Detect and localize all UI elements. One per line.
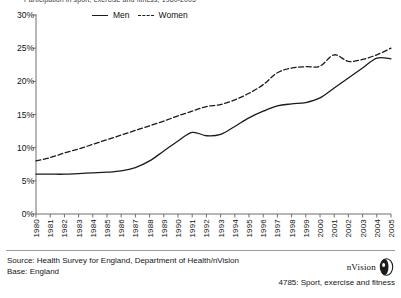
x-tick-label: 1995 — [245, 219, 254, 238]
y-tick-label: 30% — [17, 10, 34, 20]
y-tick-label: 0% — [22, 209, 34, 219]
source-block: Source: Health Survey for England, Depar… — [7, 256, 239, 277]
x-tick-label: 1993 — [217, 219, 226, 238]
x-tick-label: 1982 — [60, 219, 69, 238]
x-tick-label: 1987 — [131, 219, 140, 238]
chart-figure: Participation in sport, exercise and fit… — [0, 0, 401, 298]
base-text: Base: England — [7, 267, 239, 278]
x-tick-label: 1985 — [103, 219, 112, 238]
x-tick-label: 1990 — [174, 219, 183, 238]
x-tick-label: 1998 — [288, 219, 297, 238]
x-tick-label: 1992 — [202, 219, 211, 238]
x-axis-tick-labels: 1980198119821983198419851986198719881989… — [0, 219, 401, 253]
brand-block: nVision 4785: Sport, exercise and fitnes… — [235, 258, 395, 287]
plot-area: 0%5%10%15%20%25%30% 19801981198219831984… — [0, 0, 401, 250]
x-tick-label: 2005 — [387, 219, 396, 238]
reference-text: 4785: Sport, exercise and fitness — [235, 278, 395, 287]
brand-row: nVision — [235, 258, 395, 276]
brand-name: nVision — [347, 262, 376, 272]
x-tick-label: 1996 — [259, 219, 268, 238]
y-tick-label: 5% — [22, 176, 34, 186]
y-tick-label: 10% — [17, 143, 34, 153]
x-tick-label: 2003 — [359, 219, 368, 238]
y-tick-label: 25% — [17, 43, 34, 53]
x-tick-label: 2001 — [330, 219, 339, 238]
x-tick-label: 1988 — [146, 219, 155, 238]
x-tick-label: 1981 — [46, 219, 55, 238]
x-tick-label: 1999 — [302, 219, 311, 238]
series-line-men — [36, 58, 391, 175]
y-tick-label: 20% — [17, 76, 34, 86]
x-tick-label: 1991 — [188, 219, 197, 238]
x-tick-label: 1980 — [32, 219, 41, 238]
x-tick-label: 2002 — [344, 219, 353, 238]
x-tick-label: 1989 — [160, 219, 169, 238]
plot-svg — [0, 0, 401, 250]
x-tick-label: 2000 — [316, 219, 325, 238]
y-tick-label: 15% — [17, 110, 34, 120]
nvision-leaf-logo-icon — [378, 258, 395, 276]
footer-divider — [6, 250, 395, 251]
source-text: Source: Health Survey for England, Depar… — [7, 256, 239, 267]
x-tick-label: 1984 — [89, 219, 98, 238]
x-tick-label: 1986 — [117, 219, 126, 238]
x-tick-label: 1983 — [75, 219, 84, 238]
y-axis-tick-labels: 0%5%10%15%20%25%30% — [0, 0, 34, 230]
x-tick-label: 2004 — [373, 219, 382, 238]
series-line-women — [36, 48, 391, 161]
x-tick-label: 1997 — [273, 219, 282, 238]
x-tick-label: 1994 — [231, 219, 240, 238]
